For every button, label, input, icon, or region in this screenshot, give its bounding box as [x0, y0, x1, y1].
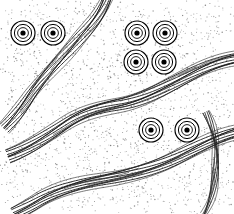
ring-core-dot — [50, 30, 55, 35]
ring-core-dot — [184, 127, 189, 132]
ring-core-dot — [161, 59, 166, 64]
ring-symbol-7 — [139, 118, 163, 142]
ring-core-dot — [134, 30, 139, 35]
ring-core-dot — [148, 127, 153, 132]
ring-symbol-5 — [124, 50, 148, 74]
ring-core-dot — [162, 30, 167, 35]
ring-core-dot — [20, 30, 25, 35]
ring-core-dot — [133, 59, 138, 64]
ring-symbol-2 — [41, 21, 65, 45]
figure-canvas — [0, 0, 234, 214]
geologic-pattern-figure — [0, 0, 234, 214]
ring-symbol-6 — [152, 50, 176, 74]
ring-symbol-3 — [125, 21, 149, 45]
ring-symbol-1 — [11, 21, 35, 45]
ring-symbol-4 — [153, 21, 177, 45]
ring-symbol-8 — [175, 118, 199, 142]
